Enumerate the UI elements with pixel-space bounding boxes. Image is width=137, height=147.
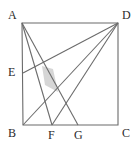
vertex-label-b: B	[8, 127, 16, 139]
geometry-canvas	[0, 0, 137, 147]
segment-a-g	[22, 23, 78, 125]
shaded-region-quadrilateral	[42, 66, 58, 92]
vertex-label-e: E	[8, 66, 15, 78]
segment-e-d	[23, 23, 118, 73]
vertex-label-a: A	[8, 9, 17, 21]
segment-d-f	[52, 23, 118, 125]
vertex-label-f: F	[48, 129, 55, 141]
geometry-figure: A D E B F G C	[0, 0, 137, 147]
vertex-label-g: G	[74, 129, 83, 141]
vertex-label-c: C	[122, 127, 130, 139]
vertex-label-d: D	[122, 9, 131, 21]
